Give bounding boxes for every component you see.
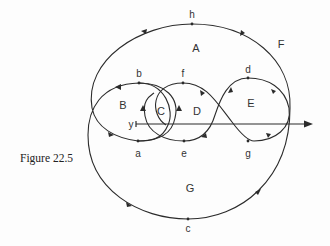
figure-22-5: h b f d a e g c y A F B C D E G Figure 2… [0,0,330,246]
figure-caption: Figure 22.5 [20,152,73,165]
region-D: D [193,105,201,117]
point-g [247,140,250,143]
label-c: c [186,223,191,234]
point-h [191,23,194,26]
arrow-icon [141,29,147,34]
label-g: g [245,148,251,159]
axis-arrowhead-icon [304,121,313,128]
arrow-icon [176,105,182,111]
point-b [138,82,141,85]
label-h: h [189,9,195,20]
label-f: f [182,68,185,79]
axis-label-y: y [129,119,134,130]
label-d: d [245,64,251,75]
label-e: e [181,148,187,159]
closed-curve-diagram: h b f d a e g c y A F B C D E G Figure 2… [0,0,330,246]
point-c [187,218,190,221]
region-G: G [186,182,195,194]
c-loop-curve [144,78,289,141]
point-f [182,82,185,85]
region-E: E [247,97,254,109]
region-F: F [278,38,285,50]
label-b: b [136,68,142,79]
point-e [183,140,186,143]
arrow-icon [271,89,276,94]
arrow-icon [255,189,261,195]
region-B: B [119,99,126,111]
arrow-icon [200,90,205,96]
region-A: A [192,42,200,54]
arrow-icon [115,84,121,90]
point-a [137,140,140,143]
label-a: a [135,148,141,159]
point-d [247,77,250,80]
region-C: C [157,105,165,117]
arrow-icon [266,133,271,138]
